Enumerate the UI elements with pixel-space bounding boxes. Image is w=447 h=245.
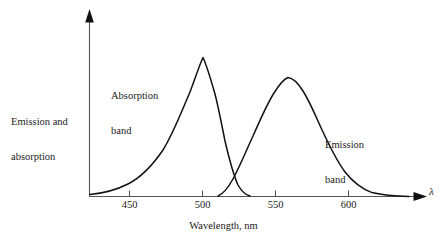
- y-axis: [85, 9, 94, 197]
- x-axis-arrowhead: [414, 192, 428, 201]
- emission-band-label-line1: Emission: [325, 139, 364, 151]
- emission-band-label-line2: band: [325, 174, 364, 186]
- y-axis-label-line2: absorption: [11, 151, 68, 163]
- y-axis-label: Emission and absorption: [11, 92, 68, 186]
- absorption-band-label: Absorption band: [111, 66, 158, 160]
- emission-band-curve: [218, 78, 409, 197]
- absorption-band-label-line1: Absorption: [111, 90, 158, 102]
- x-axis-ticks: [130, 191, 349, 197]
- absorption-band-label-line2: band: [111, 125, 158, 137]
- x-tick-label-550: 550: [256, 199, 296, 210]
- y-axis-arrowhead: [85, 9, 94, 23]
- y-axis-label-line1: Emission and: [11, 116, 68, 128]
- x-tick-label-500: 500: [183, 199, 223, 210]
- emission-band-label: Emission band: [325, 115, 364, 209]
- x-axis-title: Wavelength, nm: [0, 220, 447, 232]
- lambda-axis-symbol: λ: [429, 185, 434, 197]
- spectra-chart-figure: Emission and absorption Absorption band …: [0, 0, 447, 245]
- x-tick-label-600: 600: [329, 199, 369, 210]
- x-tick-label-450: 450: [110, 199, 150, 210]
